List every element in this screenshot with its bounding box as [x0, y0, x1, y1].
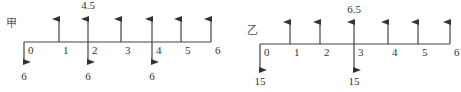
diagram-jia: 甲01234564.5666 [6, 0, 221, 82]
outflow-amount: 6 [85, 70, 91, 82]
diagram-label: 乙 [247, 24, 258, 37]
period-label: 1 [63, 44, 69, 56]
period-label: 2 [92, 44, 98, 56]
outflow-amount: 15 [255, 75, 267, 87]
diagram-svg: 甲01234564.5666 乙01234566.51515 [0, 0, 461, 92]
outflow-amount: 6 [21, 70, 27, 82]
period-label: 3 [358, 46, 364, 58]
period-label: 6 [454, 46, 460, 58]
diagram-label: 甲 [6, 17, 17, 30]
inflow-amount: 4.5 [81, 0, 95, 11]
period-label: 0 [28, 44, 34, 56]
period-label: 1 [294, 46, 300, 58]
period-label: 4 [156, 44, 162, 56]
outflow-amount: 6 [149, 70, 155, 82]
period-label: 5 [185, 44, 191, 56]
period-label: 0 [264, 46, 270, 58]
outflow-amount: 15 [349, 75, 361, 87]
period-label: 6 [215, 44, 221, 56]
period-label: 3 [125, 44, 131, 56]
period-label: 5 [422, 46, 428, 58]
diagram-yi: 乙01234566.51515 [247, 3, 460, 87]
period-label: 2 [324, 46, 330, 58]
cash-flow-diagrams: 甲01234564.5666 乙01234566.51515 [0, 0, 461, 92]
period-label: 4 [392, 46, 398, 58]
inflow-amount: 6.5 [347, 3, 361, 15]
